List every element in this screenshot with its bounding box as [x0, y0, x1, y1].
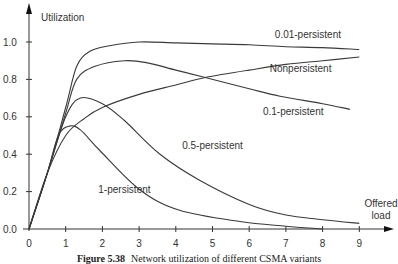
x-tick-label: 9 — [357, 238, 363, 249]
y-tick-label: 1.0 — [3, 37, 17, 48]
figure-caption-text: Network utilization of different CSMA va… — [131, 253, 321, 264]
x-tick-label: 1 — [63, 238, 69, 249]
x-tick-label: 7 — [283, 238, 289, 249]
y-tick-label: 0.6 — [3, 111, 17, 122]
series-label-0-1-persistent: 0.1-persistent — [263, 106, 324, 117]
series-line-0-5-persistent — [29, 97, 359, 229]
x-tick-label: 6 — [246, 238, 252, 249]
y-tick-label: 0.4 — [3, 149, 17, 160]
x-axis-arrow — [384, 226, 394, 232]
figure-label: Figure 5.38 — [77, 253, 125, 264]
series-label-nonpersistent: Nonpersistent — [270, 63, 332, 74]
x-tick-label: 3 — [136, 238, 142, 249]
y-tick-label: 0.0 — [3, 224, 17, 235]
x-tick-label: 8 — [320, 238, 326, 249]
figure-caption: Figure 5.38Network utilization of differ… — [0, 253, 398, 264]
y-tick-label: 0.2 — [3, 186, 17, 197]
series-label-0-5-persistent: 0.5-persistent — [182, 140, 243, 151]
labels-group: 0.01-persistentNonpersistent0.1-persiste… — [98, 29, 341, 195]
x-axis-title: load — [372, 210, 391, 221]
utilization-chart: 01234567890.00.20.40.60.81.0UtilizationO… — [0, 0, 398, 264]
x-tick-label: 5 — [210, 238, 216, 249]
x-axis-title: Offered — [364, 198, 397, 209]
series-label-1-persistent: 1-persistent — [98, 184, 150, 195]
y-axis-title: Utilization — [41, 12, 84, 23]
x-tick-label: 2 — [100, 238, 106, 249]
x-tick-label: 4 — [173, 238, 179, 249]
y-tick-label: 0.8 — [3, 74, 17, 85]
x-tick-label: 0 — [26, 238, 32, 249]
series-label-0-01-persistent: 0.01-persistent — [275, 29, 341, 40]
y-axis-arrow — [26, 3, 32, 14]
